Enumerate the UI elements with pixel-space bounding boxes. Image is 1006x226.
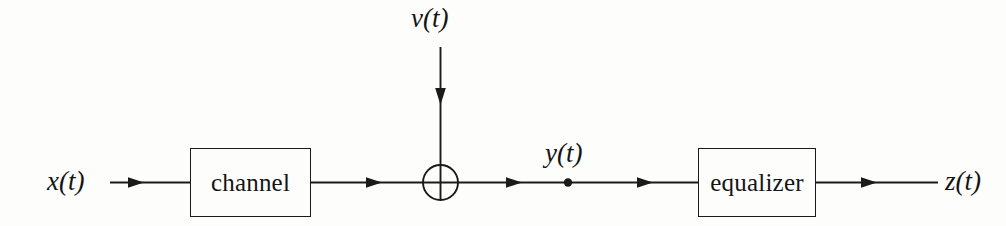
label-output-signal: z(t)	[945, 168, 981, 195]
block-equalizer-label: equalizer	[710, 170, 803, 195]
label-noise-signal: ν(t)	[411, 5, 448, 32]
diagram-wiring	[0, 0, 1006, 226]
block-channel[interactable]: channel	[190, 148, 311, 217]
block-equalizer[interactable]: equalizer	[698, 148, 816, 217]
arrowhead-node-to-equalizer	[637, 177, 653, 188]
arrowhead-channel-to-sum	[366, 177, 382, 188]
wire-channel-to-sum	[311, 177, 423, 188]
wire-equalizer-to-output	[816, 177, 938, 188]
summing-junction	[423, 165, 458, 200]
signal-tap-dot	[564, 178, 572, 186]
label-middle-signal: y(t)	[545, 140, 582, 167]
label-input-signal: x(t)	[47, 168, 84, 195]
block-diagram: channel equalizer x(t) ν(t) y(t) z(t)	[0, 0, 1006, 226]
wire-sum-to-node	[457, 177, 568, 188]
wire-node-to-equalizer	[568, 177, 698, 188]
arrowhead-noise-to-sum	[435, 88, 446, 105]
wire-input-to-channel	[110, 177, 190, 188]
wire-noise-to-sum	[435, 47, 446, 165]
arrowhead-input-to-channel	[128, 177, 144, 188]
arrowhead-sum-to-node	[506, 177, 522, 188]
block-channel-label: channel	[211, 170, 290, 195]
arrowhead-equalizer-to-output	[861, 177, 877, 188]
